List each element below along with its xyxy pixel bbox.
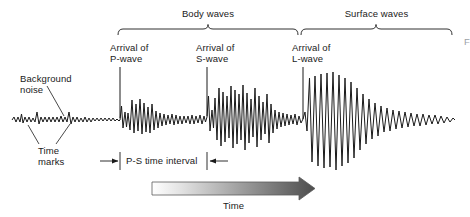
background-noise-label-line1: Background <box>20 73 72 84</box>
bracket-body-waves <box>118 25 298 36</box>
background-noise-label-line2: noise <box>20 84 43 95</box>
seismogram-figure: Body waves Surface waves Arrival of P-wa… <box>0 0 470 217</box>
arrival-label-p-wave-line1: Arrival of <box>110 42 148 53</box>
time-axis-label: Time <box>152 200 315 211</box>
arrival-label-p-wave-line2: P-wave <box>110 53 142 64</box>
time-arrow <box>152 177 315 200</box>
cut-off-caption-line-1: F <box>464 35 470 49</box>
trace-background-noise <box>12 112 120 124</box>
leader-time-marks-left <box>28 125 39 144</box>
trace-surface-waves <box>303 72 455 170</box>
bracket-surface-waves <box>301 25 452 36</box>
leader-background-noise <box>47 86 64 116</box>
arrival-label-s-wave-line2: S-wave <box>196 53 228 64</box>
bracket-label-body-waves: Body waves <box>118 8 298 19</box>
trace-s-wave <box>207 85 303 150</box>
trace-p-wave <box>120 99 207 134</box>
cut-off-caption: F s w t <box>464 8 470 68</box>
arrival-label-s-wave-line1: Arrival of <box>196 42 234 53</box>
ps-interval-label: P-S time interval <box>126 155 197 166</box>
seismogram-trace <box>12 72 455 170</box>
time-marks-label-line2: marks <box>38 156 64 167</box>
arrival-label-l-wave-line2: L-wave <box>292 53 323 64</box>
leader-time-marks-right <box>56 124 70 144</box>
time-marks-label-line1: Time <box>38 145 59 156</box>
arrival-label-l-wave-line1: Arrival of <box>292 42 330 53</box>
bracket-label-surface-waves: Surface waves <box>301 8 452 19</box>
seismogram-canvas <box>0 0 470 217</box>
